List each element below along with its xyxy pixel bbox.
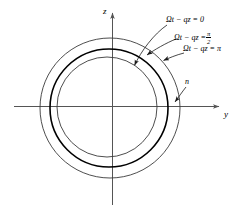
leader-normal <box>175 87 186 102</box>
phase-front-curves <box>40 38 180 178</box>
normal-vector-label: n <box>185 78 189 86</box>
y-axis-label: y <box>224 110 228 119</box>
leader-phase-half-pi <box>147 39 176 55</box>
leader-phase-pi <box>164 53 185 61</box>
phase-front-diagram: z y Ωt − qz = 0 Ωt − qz =π2 Ωt − qz = π … <box>0 0 238 212</box>
phase-zero-label: Ωt − qz = 0 <box>166 16 204 24</box>
phase-pi-label: Ωt − qz = π <box>183 45 221 53</box>
fraction-numerator: π <box>206 30 211 38</box>
phase-front-half-pi <box>50 49 168 167</box>
z-axis-label: z <box>103 7 107 16</box>
phase-half-pi-prefix: Ωt − qz = <box>174 33 206 42</box>
